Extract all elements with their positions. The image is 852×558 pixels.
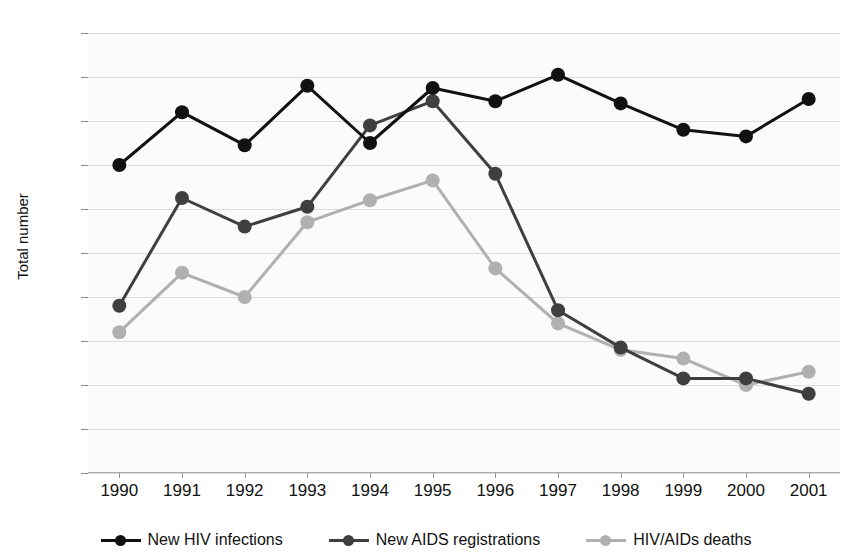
data-point-marker [175,266,189,280]
legend-dot [343,535,354,546]
gridline [88,473,840,474]
y-axis-tick-mark [81,209,88,210]
x-axis-tick-label: 1992 [210,481,280,501]
data-point-marker [426,81,440,95]
data-point-marker [112,325,126,339]
series-hiv-aids-deaths [112,173,815,392]
data-point-marker [488,94,502,108]
data-point-marker [551,303,565,317]
legend-marker-icon [101,533,141,547]
data-point-marker [614,96,628,110]
legend-label: New AIDS registrations [376,531,541,549]
data-point-marker [426,94,440,108]
data-point-marker [363,193,377,207]
data-point-marker [300,200,314,214]
x-axis-tick-mark [307,473,308,478]
x-axis-tick-mark [182,473,183,478]
data-point-marker [551,316,565,330]
series-layer [88,33,840,473]
y-axis-tick-mark [81,473,88,474]
x-axis-tick-label: 1993 [272,481,342,501]
y-axis-tick-mark [81,297,88,298]
x-axis-tick-label: 1991 [147,481,217,501]
data-point-marker [802,365,816,379]
data-point-marker [739,371,753,385]
x-axis-tick-label: 2000 [711,481,781,501]
data-point-marker [175,105,189,119]
legend-item[interactable]: New HIV infections [101,531,283,549]
legend-label: New HIV infections [148,531,283,549]
x-axis-tick-label: 1999 [648,481,718,501]
y-axis-tick-mark [81,165,88,166]
legend-marker-icon [586,533,626,547]
y-axis-tick-mark [81,121,88,122]
x-axis-tick-mark [683,473,684,478]
data-point-marker [614,341,628,355]
x-axis-tick-label: 1998 [586,481,656,501]
series-line [119,101,808,394]
y-axis-tick-mark [81,385,88,386]
data-point-marker [426,173,440,187]
y-axis-tick-mark [81,77,88,78]
x-axis-tick-label: 1990 [84,481,154,501]
data-point-marker [802,387,816,401]
series-new-aids-registrations [112,94,815,401]
data-point-marker [363,118,377,132]
x-axis-tick-label: 2001 [774,481,844,501]
data-point-marker [112,299,126,313]
x-axis-tick-label: 1994 [335,481,405,501]
legend-marker-icon [329,533,369,547]
legend-item[interactable]: New AIDS registrations [329,531,541,549]
y-axis-tick-mark [81,33,88,34]
data-point-marker [175,191,189,205]
data-point-marker [238,290,252,304]
y-axis-title: Total number [14,177,31,297]
data-point-marker [739,129,753,143]
x-axis-tick-mark [495,473,496,478]
series-new-hiv-infections [112,68,815,172]
y-axis-tick-mark [81,253,88,254]
plot-area [88,33,840,473]
x-axis-tick-label: 1996 [460,481,530,501]
series-line [119,180,808,385]
legend-dot [600,535,611,546]
data-point-marker [363,136,377,150]
y-axis-tick-mark [81,341,88,342]
data-point-marker [488,167,502,181]
legend-dot [115,535,126,546]
x-axis-tick-mark [433,473,434,478]
data-point-marker [802,92,816,106]
data-point-marker [238,220,252,234]
data-point-marker [488,261,502,275]
x-axis-tick-mark [119,473,120,478]
x-axis-tick-mark [621,473,622,478]
data-point-marker [676,352,690,366]
x-axis-tick-label: 1995 [398,481,468,501]
x-axis-tick-mark [746,473,747,478]
data-point-marker [238,138,252,152]
x-axis-tick-mark [558,473,559,478]
chart-container: Total number 020406080100120140160180200… [0,0,852,558]
data-point-marker [551,68,565,82]
chart-legend: New HIV infectionsNew AIDS registrations… [0,525,852,555]
data-point-marker [300,215,314,229]
data-point-marker [112,158,126,172]
legend-item[interactable]: HIV/AIDs deaths [586,531,751,549]
series-line [119,75,808,165]
x-axis-tick-mark [245,473,246,478]
y-axis-tick-mark [81,429,88,430]
data-point-marker [676,123,690,137]
x-axis-tick-mark [809,473,810,478]
x-axis-tick-mark [370,473,371,478]
data-point-marker [676,371,690,385]
data-point-marker [300,79,314,93]
legend-label: HIV/AIDs deaths [633,531,751,549]
x-axis-tick-label: 1997 [523,481,593,501]
